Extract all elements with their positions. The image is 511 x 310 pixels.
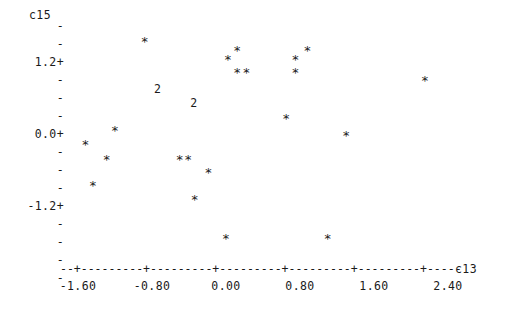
- y-axis-minor-tick: -: [0, 165, 64, 177]
- x-axis-tick-label: 0.80: [270, 281, 330, 293]
- data-point-star: *: [140, 35, 150, 48]
- data-point-star: *: [232, 44, 242, 57]
- data-point-overplot-count: 2: [189, 98, 199, 110]
- y-axis-minor-tick: -: [0, 183, 64, 195]
- data-point-star: *: [302, 44, 312, 57]
- x-axis-rule: --+---------+---------+---------+-------…: [60, 264, 462, 276]
- data-point-star: *: [88, 179, 98, 192]
- y-axis-major-tick: 0.0+: [0, 129, 64, 141]
- y-axis-minor-tick: -: [0, 219, 64, 231]
- data-point-star: *: [102, 153, 112, 166]
- data-point-star: *: [290, 53, 300, 66]
- data-point-star: *: [290, 66, 300, 79]
- data-point-star: *: [183, 153, 193, 166]
- y-axis-minor-tick: -: [0, 21, 64, 33]
- y-axis-minor-tick: -: [0, 93, 64, 105]
- data-point-star: *: [190, 193, 200, 206]
- data-point-star: *: [80, 138, 90, 151]
- data-point-star: *: [341, 129, 351, 142]
- data-point-overplot-count: 2: [153, 84, 163, 96]
- x-axis-tick-label: 2.40: [418, 281, 478, 293]
- data-point-star: *: [223, 53, 233, 66]
- x-axis-caption: c13: [455, 264, 477, 276]
- y-axis-caption: c15: [29, 10, 51, 22]
- y-axis-major-tick: -1.2+: [0, 201, 64, 213]
- data-point-star: *: [420, 74, 430, 87]
- data-point-star: *: [281, 112, 291, 125]
- data-point-star: *: [323, 232, 333, 245]
- y-axis-major-tick: 1.2+: [0, 57, 64, 69]
- x-axis-tick-label: -1.60: [48, 281, 108, 293]
- y-axis-minor-tick: -: [0, 39, 64, 51]
- y-axis-minor-tick: -: [0, 237, 64, 249]
- x-axis-tick-label: -0.80: [122, 281, 182, 293]
- y-axis-minor-tick: -: [0, 111, 64, 123]
- x-axis-tick-label: 1.60: [344, 281, 404, 293]
- x-axis-tick-label: 0.00: [196, 281, 256, 293]
- data-point-star: *: [110, 124, 120, 137]
- character-scatter-plot: c15 --1.2+---0.0+----1.2+---- ********22…: [0, 0, 511, 310]
- y-axis-minor-tick: -: [0, 147, 64, 159]
- data-point-star: *: [241, 66, 251, 79]
- y-axis-minor-tick: -: [0, 75, 64, 87]
- data-point-star: *: [221, 232, 231, 245]
- y-axis-minor-tick: -: [0, 255, 64, 267]
- data-point-star: *: [203, 166, 213, 179]
